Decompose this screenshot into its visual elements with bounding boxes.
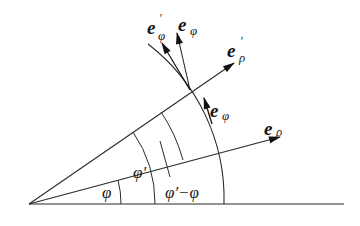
- arc-large: [148, 44, 224, 204]
- svg-text:φ: φ: [158, 28, 165, 43]
- svg-text:e: e: [147, 17, 156, 38]
- svg-text:φ: φ: [222, 108, 229, 123]
- svg-text:φ: φ: [190, 23, 197, 38]
- label-e-rho: e ρ: [264, 118, 282, 139]
- polar-unit-vectors-diagram: e ′ φ e φ e ′ ρ e φ e ρ φ φ′ φ′−φ: [0, 0, 360, 226]
- ray-phi-prime: [29, 63, 234, 204]
- label-e-phi-prime: e ′ φ: [147, 11, 165, 43]
- svg-text:ρ: ρ: [275, 124, 282, 139]
- label-e-phi: e φ: [210, 100, 229, 123]
- svg-text:′: ′: [240, 34, 243, 48]
- svg-text:e: e: [227, 40, 236, 61]
- vector-e-phi-prime: [162, 43, 190, 90]
- arc-phi-prime-minus-phi: [161, 112, 183, 160]
- label-leader-line: [160, 141, 170, 177]
- svg-text:e: e: [178, 14, 187, 35]
- label-angle-difference: φ′−φ: [165, 183, 199, 202]
- label-angle-phi: φ: [102, 183, 111, 202]
- arc-phi: [118, 180, 121, 204]
- label-angle-phi-prime: φ′: [133, 163, 146, 182]
- label-e-rho-prime: e ′ ρ: [227, 34, 245, 65]
- label-e-phi-top: e φ: [178, 14, 197, 38]
- vector-e-phi-translated: [177, 33, 190, 90]
- svg-text:′: ′: [159, 11, 162, 25]
- svg-text:e: e: [264, 118, 273, 139]
- svg-text:e: e: [210, 100, 219, 121]
- svg-text:ρ: ρ: [238, 50, 245, 65]
